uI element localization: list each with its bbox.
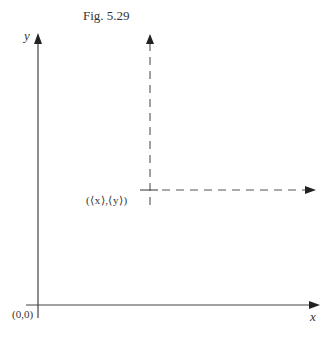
horizontal-dashed-arrow-icon	[305, 186, 316, 194]
x-axis-arrow-icon	[309, 301, 320, 309]
diagram-canvas	[0, 0, 332, 340]
vertical-dashed-arrow-icon	[146, 34, 154, 44]
y-axis-arrow-icon	[34, 33, 42, 44]
